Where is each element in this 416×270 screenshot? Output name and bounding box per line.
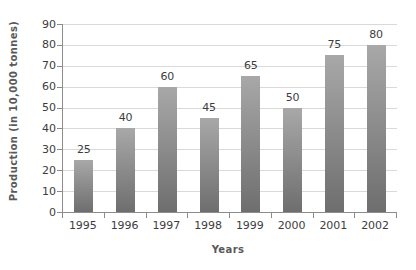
bar-value-label-2000: 50 <box>272 91 314 104</box>
y-tick-mark <box>57 24 62 25</box>
bar-2001 <box>325 55 344 212</box>
bar-value-label-1998: 45 <box>188 101 230 114</box>
y-tick-mark <box>57 45 62 46</box>
y-tick-mark <box>57 108 62 109</box>
x-category-label-1996: 1996 <box>104 219 146 232</box>
bar-value-label-1996: 40 <box>105 111 147 124</box>
bar-2002 <box>367 45 386 212</box>
x-tick-mark <box>313 213 314 218</box>
y-tick-mark <box>57 191 62 192</box>
y-tick-mark <box>57 170 62 171</box>
x-tick-mark <box>146 213 147 218</box>
y-tick-label-40: 40 <box>22 122 56 135</box>
gridline-20 <box>63 170 397 171</box>
y-tick-label-90: 90 <box>22 18 56 31</box>
x-tick-mark <box>62 213 63 218</box>
y-tick-mark <box>57 149 62 150</box>
bar-value-label-1995: 25 <box>63 143 105 156</box>
y-axis-title: Production (in 10,000 tonnes) <box>8 21 19 201</box>
x-category-label-1997: 1997 <box>146 219 188 232</box>
bar-1997 <box>158 87 177 212</box>
bar-value-label-2002: 80 <box>355 28 397 41</box>
bar-1999 <box>241 76 260 212</box>
bar-value-label-2001: 75 <box>313 38 355 51</box>
x-tick-mark <box>229 213 230 218</box>
x-category-label-2000: 2000 <box>271 219 313 232</box>
gridline-40 <box>63 128 397 129</box>
x-tick-mark <box>354 213 355 218</box>
x-tick-mark <box>271 213 272 218</box>
y-tick-mark <box>57 128 62 129</box>
gridline-10 <box>63 191 397 192</box>
gridline-60 <box>63 87 397 88</box>
gridline-30 <box>63 149 397 150</box>
bar-value-label-1999: 65 <box>230 59 272 72</box>
x-category-label-1998: 1998 <box>187 219 229 232</box>
y-tick-label-60: 60 <box>22 80 56 93</box>
y-tick-label-80: 80 <box>22 38 56 51</box>
y-tick-mark <box>57 66 62 67</box>
x-category-label-1995: 1995 <box>62 219 104 232</box>
x-category-label-1999: 1999 <box>229 219 271 232</box>
y-tick-label-0: 0 <box>22 206 56 219</box>
x-tick-mark <box>104 213 105 218</box>
x-tick-mark <box>187 213 188 218</box>
gridline-90 <box>63 24 397 25</box>
bar-1998 <box>200 118 219 212</box>
y-tick-label-70: 70 <box>22 59 56 72</box>
y-tick-label-10: 10 <box>22 185 56 198</box>
y-tick-mark <box>57 87 62 88</box>
bar-chart: Production (in 10,000 tonnes) 2540604565… <box>0 0 416 270</box>
x-tick-mark <box>396 213 397 218</box>
bar-1995 <box>74 160 93 212</box>
x-category-label-2001: 2001 <box>313 219 355 232</box>
y-tick-label-30: 30 <box>22 143 56 156</box>
y-tick-label-50: 50 <box>22 101 56 114</box>
bar-2000 <box>283 108 302 212</box>
x-axis-title: Years <box>212 244 245 255</box>
bar-value-label-1997: 60 <box>146 70 188 83</box>
bar-1996 <box>116 128 135 212</box>
y-tick-label-20: 20 <box>22 164 56 177</box>
plot-area: 2540604565507580 <box>62 24 397 213</box>
x-category-label-2002: 2002 <box>354 219 396 232</box>
